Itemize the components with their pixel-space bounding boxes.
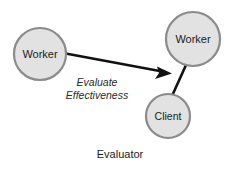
diagram-canvas: Worker Worker Client Evaluate Effectiven… (0, 0, 227, 169)
edge-worker-client-link (172, 65, 186, 96)
edge-label-evaluate: Evaluate (77, 76, 118, 88)
node-worker-right-label: Worker (175, 33, 211, 45)
node-client-label: Client (155, 110, 182, 122)
figure-caption: Evaluator (97, 148, 144, 160)
evaluator-diagram: Worker Worker Client Evaluate Effectiven… (0, 0, 227, 169)
node-worker-left: Worker (14, 28, 66, 80)
node-worker-left-label: Worker (22, 48, 58, 60)
node-client: Client (146, 94, 190, 138)
edge-evaluate-effectiveness-shaft (63, 53, 165, 72)
edge-label-effectiveness: Effectiveness (66, 89, 129, 101)
node-worker-right: Worker (166, 12, 220, 66)
edge-evaluate-effectiveness-arrowhead (155, 67, 172, 80)
